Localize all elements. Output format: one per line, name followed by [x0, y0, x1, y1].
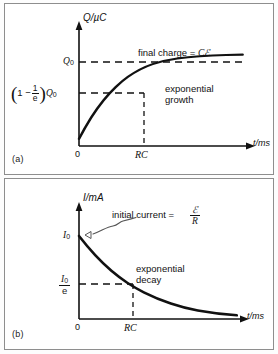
fraction-one-over-e: 1e	[32, 84, 39, 103]
chart-b-y-axis-title: I/mA	[83, 192, 104, 203]
panel-b-tag: (b)	[12, 329, 24, 339]
figure-rc-charging-discharging: Q/µC t/ms 0 RC Q0 (1 −1e)Q0 final charge…	[0, 0, 278, 354]
panel-a-charge-vs-time: Q/µC t/ms 0 RC Q0 (1 −1e)Q0 final charge…	[4, 3, 274, 175]
chart-b-y-tick-i0: I0	[63, 230, 70, 241]
chart-a-y-tick-q0: Q0	[63, 56, 74, 67]
chart-a-annotation-final-charge: final charge = Cℰ	[138, 48, 210, 59]
chart-b-origin-label: 0	[75, 322, 80, 332]
chart-a-origin-label: 0	[75, 149, 80, 159]
panel-b-current-vs-time: I/mA t/ms 0 RC I0 I0 e initial current =…	[4, 178, 274, 350]
panel-a-tag: (a)	[12, 154, 24, 164]
chart-b-callout-marker-icon	[85, 232, 91, 239]
chart-a-x-tick-rc: RC	[135, 149, 148, 160]
chart-b-annotation-emf-over-r: ℰ R	[190, 205, 200, 227]
chart-b-x-tick-rc: RC	[124, 322, 137, 333]
chart-a-curve-exponential-growth	[79, 55, 243, 139]
chart-b-annotation-initial-current: initial current =	[112, 210, 174, 221]
chart-a-y-axis-arrow	[76, 21, 83, 30]
chart-a-x-axis-title: t/ms	[253, 138, 270, 148]
chart-a-y-tick-q0-one-minus-one-over-e: (1 −1e)Q0	[11, 84, 57, 103]
chart-b-annotation-exponential-decay: exponential decay	[136, 264, 185, 286]
chart-b-y-tick-i0-over-e: I0 e	[59, 274, 70, 296]
chart-a-y-axis-title: Q/µC	[83, 12, 107, 23]
chart-b-x-axis-title: t/ms	[247, 311, 264, 321]
chart-a-annotation-exponential-growth: exponential growth	[165, 84, 214, 106]
chart-b-y-axis-arrow	[76, 202, 83, 211]
